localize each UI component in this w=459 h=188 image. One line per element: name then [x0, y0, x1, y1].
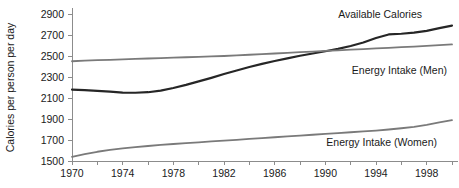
- series-label-energy-intake-women: Energy Intake (Women): [326, 136, 437, 148]
- y-tick-label: 2900: [41, 8, 65, 20]
- y-tick-label: 1700: [41, 134, 65, 146]
- y-tick-label: 2100: [41, 92, 65, 104]
- y-tick-label: 1900: [41, 113, 65, 125]
- line-chart: 15001700190021002300250027002900 1970197…: [0, 0, 459, 188]
- series-annotations: Available CaloriesEnergy Intake (Men)Ene…: [326, 8, 447, 148]
- y-tick-label: 2700: [41, 29, 65, 41]
- x-tick-label: 1982: [212, 167, 236, 179]
- x-tick-label: 1994: [364, 167, 388, 179]
- x-tick-label: 1974: [111, 167, 135, 179]
- x-tick-label: 1986: [263, 167, 287, 179]
- y-axis-title-text: Calories per person per day: [4, 22, 16, 152]
- chart-canvas: 15001700190021002300250027002900 1970197…: [0, 0, 459, 188]
- x-tick-label: 1978: [162, 167, 186, 179]
- series-label-energy-intake-men: Energy Intake (Men): [352, 64, 447, 76]
- y-tick-label: 2500: [41, 50, 65, 62]
- y-axis: 15001700190021002300250027002900: [41, 8, 72, 167]
- x-tick-label: 1998: [415, 167, 439, 179]
- x-tick-label: 1970: [60, 167, 84, 179]
- x-axis: 19701974197819821986199019941998: [60, 161, 458, 179]
- y-tick-label: 2300: [41, 71, 65, 83]
- x-tick-label: 1990: [314, 167, 338, 179]
- series-label-available-calories: Available Calories: [338, 8, 422, 20]
- y-axis-title: Calories per person per day: [4, 22, 16, 152]
- series-line-energy-intake-men: [72, 44, 452, 61]
- y-tick-label: 1500: [41, 155, 65, 167]
